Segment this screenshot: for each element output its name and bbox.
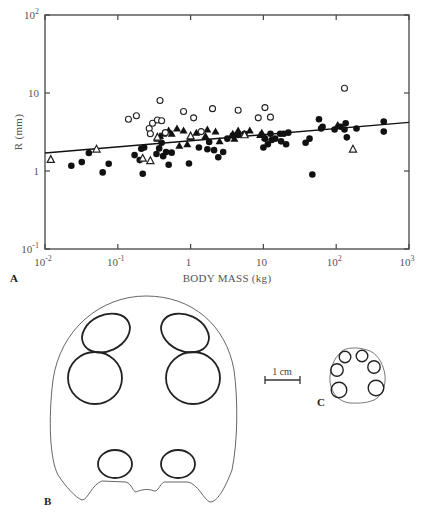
small-ring-5: [331, 382, 347, 398]
data-point-filled-triangle: [234, 127, 242, 134]
data-point-filled-circle: [211, 147, 218, 154]
data-point-filled-circle: [131, 152, 138, 159]
data-point-filled-circle: [380, 128, 387, 135]
data-point-filled-triangle: [173, 125, 181, 132]
large-ring-upper-left: [76, 306, 137, 360]
data-point-filled-circle: [86, 150, 93, 157]
small-ring-4: [368, 361, 380, 373]
data-point-filled-circle: [353, 125, 360, 132]
data-point-filled-circle: [163, 149, 170, 156]
panel-b-drawing: [50, 296, 237, 502]
x-axis-title: BODY MASS (kg): [183, 272, 272, 285]
small-ring-6: [368, 380, 384, 396]
data-point-filled-triangle: [175, 142, 183, 149]
panel-label-b: B: [44, 495, 52, 507]
x-tick-label: 10: [256, 256, 268, 268]
scale-bar-label: 1 cm: [272, 366, 292, 377]
data-point-filled-circle: [139, 171, 146, 178]
data-point-filled-circle: [283, 141, 290, 148]
data-point-filled-triangle: [180, 127, 188, 134]
small-ring-1: [339, 351, 351, 363]
data-point-open-circle: [125, 116, 131, 122]
large-ring-mid-left: [68, 352, 122, 404]
data-point-filled-circle: [204, 146, 211, 153]
data-point-filled-circle: [153, 151, 160, 158]
data-point-filled-circle: [68, 162, 75, 169]
data-point-open-circle: [262, 105, 268, 111]
data-point-filled-circle: [165, 162, 172, 169]
data-point-filled-circle: [215, 154, 222, 161]
data-point-filled-circle: [319, 123, 326, 130]
data-point-filled-circle: [186, 160, 193, 167]
data-point-filled-circle: [99, 169, 106, 176]
large-ring-mid-right: [166, 352, 220, 404]
data-point-filled-circle: [344, 134, 351, 141]
data-point-open-circle: [198, 129, 204, 135]
x-tick-label: 1: [186, 256, 192, 268]
data-point-open-circle: [235, 107, 241, 113]
data-point-open-triangle: [47, 156, 54, 163]
data-point-filled-circle: [206, 139, 213, 146]
data-point-open-triangle: [349, 145, 356, 152]
data-point-open-circle: [255, 115, 261, 121]
data-point-filled-circle: [342, 120, 349, 127]
panel-c-drawing: [330, 348, 385, 403]
data-point-open-circle: [162, 130, 168, 136]
data-point-filled-circle: [267, 130, 274, 137]
data-point-filled-circle: [341, 126, 348, 133]
data-point-open-circle: [157, 98, 163, 104]
small-ring-2: [356, 350, 368, 362]
data-point-filled-circle: [380, 118, 387, 125]
plot-frame: [45, 15, 409, 249]
data-point-filled-circle: [105, 160, 112, 167]
data-points: [47, 85, 387, 178]
data-point-filled-circle: [196, 144, 203, 151]
y-tick-label: 10-1: [21, 241, 39, 255]
large-ring-lower-left: [98, 450, 132, 478]
data-point-open-circle: [267, 114, 273, 120]
y-tick-label: 10: [28, 87, 40, 99]
panel-label-a: A: [10, 272, 18, 284]
data-point-filled-circle: [272, 135, 279, 142]
data-point-filled-circle: [141, 144, 148, 151]
panel-label-c: C: [317, 396, 325, 408]
data-point-filled-circle: [309, 171, 316, 178]
small-ring-3: [331, 364, 343, 376]
axis-ticks: [45, 15, 409, 249]
x-tick-label: 10-1: [107, 254, 125, 268]
data-point-open-circle: [133, 113, 139, 119]
data-point-filled-circle: [78, 159, 85, 166]
data-point-filled-circle: [285, 129, 292, 136]
y-tick-label: 102: [24, 7, 39, 21]
data-point-filled-triangle: [246, 127, 254, 134]
data-point-filled-triangle: [212, 128, 220, 135]
data-point-open-circle: [181, 108, 187, 114]
axis-tick-labels: 10-210-111010210310-1110102: [21, 7, 414, 268]
data-point-open-circle: [191, 115, 197, 121]
scale-bar: 1 cm: [265, 366, 300, 384]
data-point-filled-circle: [316, 116, 323, 123]
x-tick-label: 10-2: [34, 254, 52, 268]
data-point-open-circle: [341, 85, 347, 91]
data-point-open-circle: [159, 118, 165, 124]
x-tick-label: 103: [400, 254, 415, 268]
x-tick-label: 102: [327, 254, 342, 268]
y-axis-title: R (mm): [12, 114, 25, 150]
data-point-filled-circle: [220, 149, 227, 156]
large-ring-lower-right: [161, 450, 195, 478]
data-point-open-triangle: [147, 157, 154, 164]
data-point-open-circle: [210, 106, 216, 112]
large-ring-upper-right: [155, 306, 216, 360]
data-point-open-circle: [147, 131, 153, 137]
data-point-filled-circle: [168, 149, 175, 156]
y-tick-label: 1: [34, 165, 40, 177]
figure: 10-210-111010210310-1110102 R (mm) BODY …: [0, 0, 427, 513]
scatter-plot: 10-210-111010210310-1110102 R (mm) BODY …: [12, 7, 415, 285]
data-point-filled-circle: [306, 135, 313, 142]
